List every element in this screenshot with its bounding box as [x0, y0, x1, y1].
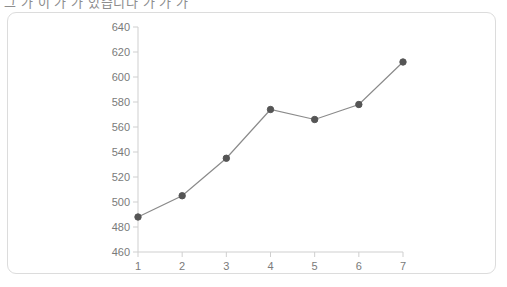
chart-canvas	[8, 13, 497, 275]
y-axis-tick-label: 460	[112, 246, 130, 258]
y-axis-tick-label: 580	[112, 96, 130, 108]
y-axis-tick-label: 560	[112, 121, 130, 133]
y-axis-tick-label: 540	[112, 146, 130, 158]
data-point-marker[interactable]	[311, 116, 317, 122]
x-axis-tick-label: 2	[179, 260, 185, 272]
data-point-marker[interactable]	[356, 101, 362, 107]
data-line	[138, 62, 403, 217]
y-axis-tick-label: 480	[112, 221, 130, 233]
x-axis-tick-label: 3	[223, 260, 229, 272]
chart-card: 640620600580560540520500480460 1234567	[7, 12, 496, 274]
x-axis-tick-label: 7	[400, 260, 406, 272]
x-axis-tick-label: 6	[356, 260, 362, 272]
x-axis-tick-label: 4	[267, 260, 273, 272]
data-point-marker[interactable]	[135, 214, 141, 220]
caption-text: 그 가 이 가 가 있습니다 가 가 가	[4, 0, 189, 11]
line-chart: 640620600580560540520500480460 1234567	[8, 13, 497, 275]
x-axis-tick-label: 5	[312, 260, 318, 272]
x-axis-tick-label: 1	[135, 260, 141, 272]
y-axis-tick-label: 620	[112, 46, 130, 58]
data-point-marker[interactable]	[400, 59, 406, 65]
data-point-marker[interactable]	[223, 155, 229, 161]
y-axis-tick-label: 500	[112, 196, 130, 208]
data-point-marker[interactable]	[179, 193, 185, 199]
caption-strip: 그 가 이 가 가 있습니다 가 가 가	[0, 0, 507, 11]
y-axis-tick-label: 520	[112, 171, 130, 183]
data-point-marker[interactable]	[267, 106, 273, 112]
y-axis-tick-label: 640	[112, 21, 130, 33]
y-axis-tick-label: 600	[112, 71, 130, 83]
